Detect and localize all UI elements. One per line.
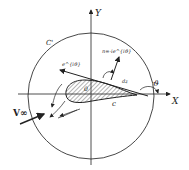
contour-label: c <box>112 101 116 108</box>
origin-label: 0 <box>84 86 88 92</box>
x-axis-label: X <box>172 97 178 106</box>
y-axis-label: Y <box>95 9 101 18</box>
airfoil-diagram: Y X 0 C' c e^{iϑ} n=-ie^{iϑ} dz ϑ V∞ <box>0 0 189 170</box>
normal-vector <box>111 57 119 80</box>
freestream-label: V∞ <box>13 109 27 118</box>
flow-line <box>50 101 65 117</box>
outer-circle-label: C' <box>46 40 53 47</box>
tangent-label: e^{iϑ} <box>62 62 81 67</box>
flow-line <box>60 109 80 116</box>
normal-label: n=-ie^{iϑ} <box>102 49 131 54</box>
element-label: dz <box>122 79 128 84</box>
angle-label: ϑ <box>153 80 159 88</box>
flow-line <box>52 84 62 107</box>
diagram-canvas <box>0 0 189 170</box>
